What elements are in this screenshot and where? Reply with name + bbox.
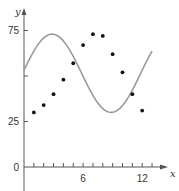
data-point	[62, 78, 66, 82]
data-point	[91, 32, 95, 36]
scatter-chart: 61202575xy	[0, 0, 179, 191]
data-point	[71, 61, 75, 65]
data-point	[81, 43, 85, 47]
data-point	[32, 111, 36, 115]
data-point	[111, 52, 115, 56]
y-tick-label: 25	[8, 116, 20, 127]
data-point	[130, 92, 134, 96]
data-point	[42, 103, 46, 107]
data-point	[121, 70, 125, 74]
data-point	[101, 34, 105, 38]
y-axis-arrow-icon	[22, 8, 27, 15]
y-tick-label: 75	[8, 25, 20, 36]
data-point	[52, 92, 56, 96]
x-axis-arrow-icon	[160, 165, 168, 170]
x-axis-label: x	[170, 168, 176, 179]
x-tick-label: 12	[137, 173, 149, 184]
x-tick-label: 6	[80, 173, 86, 184]
curve-path	[24, 34, 152, 112]
data-point	[140, 109, 144, 113]
y-axis-label: y	[14, 6, 21, 17]
sinusoid-curve	[24, 34, 152, 112]
y-tick-label: 0	[13, 162, 19, 173]
data-points	[32, 32, 144, 114]
